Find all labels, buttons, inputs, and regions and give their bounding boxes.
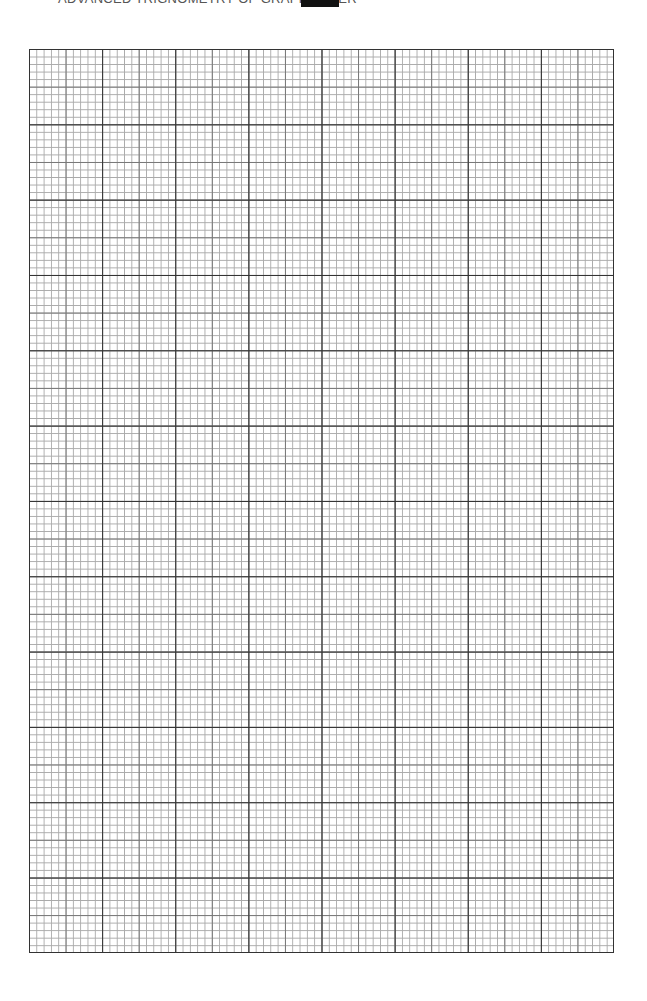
graph-paper-grid xyxy=(29,49,614,953)
header-black-box xyxy=(301,0,339,7)
